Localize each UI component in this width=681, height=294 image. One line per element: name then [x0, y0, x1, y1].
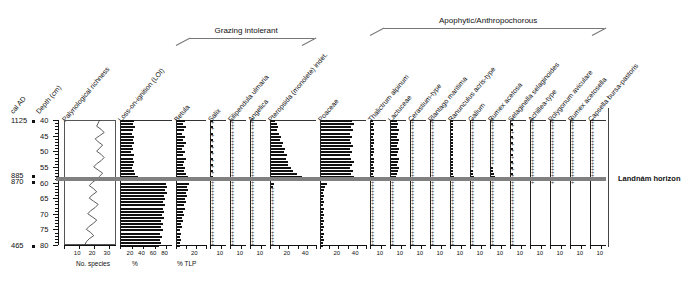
depth-tick — [53, 167, 58, 168]
pollen-bar — [391, 139, 399, 141]
depth-tick — [55, 123, 58, 124]
pollen-bar — [271, 173, 297, 175]
pollen-bar — [371, 142, 374, 144]
pollen-bar — [321, 123, 354, 125]
pollen-bar — [271, 142, 283, 144]
curve-scale-label: 40 — [138, 250, 145, 256]
pollen-bar — [451, 148, 453, 150]
curve-scale-tick — [221, 245, 222, 249]
curve-scale-label: 10 — [556, 250, 563, 256]
depth-tick — [55, 220, 58, 221]
pollen-bar — [121, 154, 134, 156]
pollen-bar — [121, 201, 163, 203]
group-bracket-bar — [190, 38, 314, 39]
curve-bottom-axis — [320, 245, 366, 246]
pollen-bar — [391, 161, 398, 163]
pollen-bar — [271, 145, 282, 147]
pollen-bar — [121, 195, 164, 197]
curve-scale-tick — [94, 245, 95, 249]
pollen-bar — [177, 173, 186, 175]
pollen-bar — [371, 139, 374, 141]
pollen-bar — [177, 233, 181, 235]
curve-scale-label: 20 — [283, 250, 290, 256]
pollen-bar — [391, 167, 399, 169]
calad-mark-tick — [32, 181, 35, 184]
pollen-bar — [321, 208, 324, 210]
pollen-bar — [371, 161, 374, 163]
pollen-bar — [271, 133, 279, 135]
pollen-bar — [121, 239, 160, 241]
curve-scale-tick — [288, 245, 289, 249]
pollen-bar — [391, 164, 397, 166]
group-bracket-leg — [176, 38, 191, 46]
curve-bottom-axis — [590, 245, 606, 246]
pollen-bar — [321, 211, 323, 213]
pollen-bar — [321, 201, 324, 203]
curve-scale-tick — [186, 245, 187, 249]
pollen-bar — [121, 161, 134, 163]
depth-tick — [55, 154, 58, 155]
curve-scale-tick — [206, 245, 207, 249]
pollen-bar — [391, 120, 397, 122]
pollen-bar — [121, 120, 134, 122]
pollen-bar — [177, 136, 185, 138]
pollen-bar — [121, 204, 165, 206]
depth-tick-label: 75 — [40, 225, 48, 234]
depth-tick — [55, 192, 58, 193]
pollen-bar — [391, 133, 398, 135]
pollen-bar — [451, 120, 453, 122]
depth-tick — [55, 201, 58, 202]
pollen-bar — [371, 164, 373, 166]
pollen-bar — [177, 245, 180, 247]
presence-marker: + — [471, 242, 474, 248]
curve-bottom-axis — [550, 245, 566, 246]
pollen-bar — [321, 198, 323, 200]
curve-scale-tick — [581, 245, 582, 249]
pollen-bar — [321, 245, 323, 247]
pollen-bar — [321, 129, 353, 131]
calad-mark-tick — [32, 245, 35, 248]
landnam-horizon-label: Landnám horizon — [618, 174, 681, 183]
curve-scale-label: 10 — [396, 250, 403, 256]
pollen-bar — [321, 133, 350, 135]
curve-scale-label: 20 — [127, 250, 134, 256]
curve-scale-label: 10 — [416, 250, 423, 256]
pollen-bar — [321, 229, 323, 231]
depth-tick — [55, 173, 58, 174]
presence-marker: + — [211, 242, 214, 248]
pollen-bar — [371, 129, 374, 131]
pollen-bar — [321, 145, 353, 147]
pollen-bar — [177, 186, 187, 188]
pollen-bar — [121, 189, 165, 191]
pollen-bar — [491, 167, 493, 169]
footer-unit-label: % TLP — [177, 260, 196, 267]
pollen-bar — [321, 167, 350, 169]
pollen-bar — [321, 170, 353, 172]
pollen-bar — [121, 223, 163, 225]
curve-scale-label: 60 — [150, 250, 157, 256]
presence-marker: + — [391, 242, 394, 248]
pollen-bar — [471, 173, 473, 175]
pollen-bar — [451, 151, 453, 153]
footer-unit-label: % — [132, 260, 138, 267]
pollen-bar — [451, 170, 453, 172]
pollen-bar — [121, 133, 132, 135]
pollen-bar — [121, 211, 164, 213]
pollen-bar — [321, 173, 351, 175]
pollen-bar — [177, 142, 186, 144]
depth-tick — [55, 223, 58, 224]
landnam-horizon-band — [56, 177, 606, 181]
pollen-bar — [177, 126, 186, 128]
pollen-bar — [271, 126, 278, 128]
pollen-bar — [321, 242, 323, 244]
pollen-bar — [121, 158, 133, 160]
richness-frame — [64, 120, 116, 245]
depth-tick — [55, 211, 58, 212]
pollen-bar — [371, 120, 373, 122]
depth-tick — [53, 198, 58, 199]
pollen-bar — [121, 208, 163, 210]
pollen-bar — [451, 133, 453, 135]
curve-scale-tick — [601, 245, 602, 249]
curve-scale-label: 10 — [496, 250, 503, 256]
curve-scale-label: 80 — [161, 250, 168, 256]
